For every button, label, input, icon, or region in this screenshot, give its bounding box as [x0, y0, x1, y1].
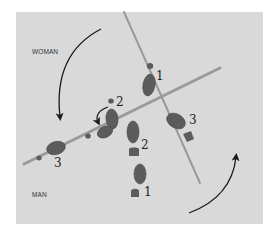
woman-step-3-number: 3: [189, 113, 197, 127]
woman-step-1-footprint: [141, 63, 157, 97]
woman-step-2-number: 2: [116, 95, 124, 109]
man-step-2-footprint: [127, 121, 139, 156]
rotation-arrow-lower-right: [189, 157, 236, 213]
man-label: MAN: [32, 191, 47, 198]
man-step-3-number: 3: [54, 156, 62, 170]
man-step-2-number: 2: [141, 138, 149, 152]
woman-label: WOMAN: [32, 48, 58, 55]
guide-line-diagonal-short: [124, 12, 200, 183]
man-step-3-footprint: [36, 139, 66, 160]
man-step-1-number: 1: [144, 185, 152, 199]
rotation-arrow-upper-left: [59, 29, 101, 117]
footwork-diagram: 1 2 3 1 2 3: [0, 0, 273, 233]
woman-step-1-number: 1: [156, 69, 164, 83]
